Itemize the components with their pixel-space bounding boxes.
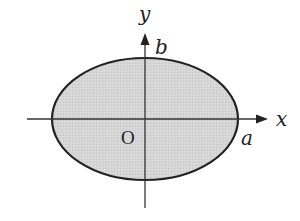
y-axis-label: y [138, 2, 151, 26]
semi-major-label-a: a [241, 126, 253, 150]
semi-minor-label-b: b [155, 35, 168, 59]
x-axis-label: x [276, 107, 287, 131]
ellipse-diagram: y b x a O [0, 0, 300, 221]
x-axis-arrow-icon [256, 115, 268, 124]
origin-label: O [121, 127, 135, 148]
y-axis-arrow-icon [141, 33, 150, 45]
